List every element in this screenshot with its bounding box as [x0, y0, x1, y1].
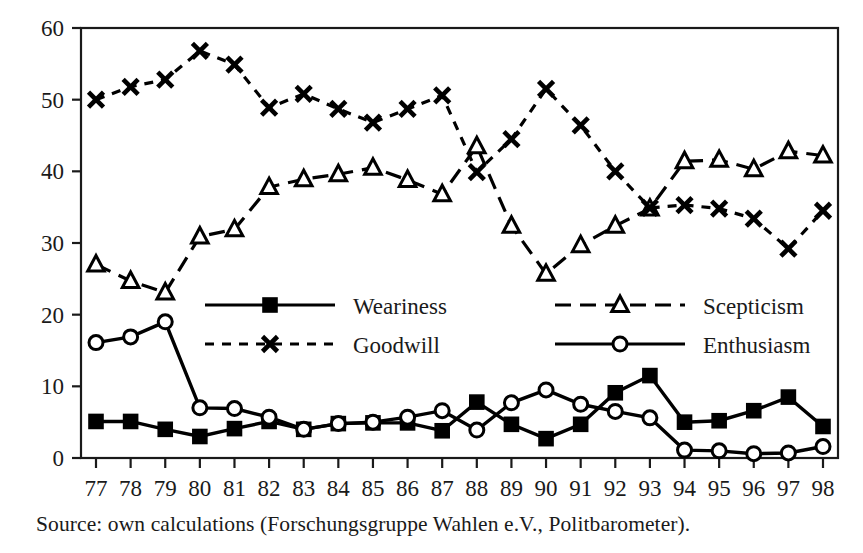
chart-figure: 6050403020100 77787980818283848586878889… — [0, 0, 863, 553]
marker-open-triangle — [676, 152, 693, 167]
marker-filled-square — [781, 390, 795, 404]
marker-cross-x — [608, 164, 623, 179]
marker-open-triangle — [365, 159, 382, 174]
marker-open-circle — [297, 422, 311, 436]
y-axis-ticks — [72, 28, 81, 458]
marker-open-circle — [608, 404, 622, 418]
legend-entry-goodwill[interactable]: Goodwill — [205, 333, 440, 358]
marker-cross-x — [262, 100, 277, 115]
marker-open-circle — [574, 397, 588, 411]
marker-open-triangle — [88, 256, 105, 271]
marker-cross-x — [539, 81, 554, 96]
marker-open-circle — [781, 446, 795, 460]
marker-filled-square — [678, 415, 692, 429]
marker-cross-x — [746, 211, 761, 226]
legend-entry-scepticism[interactable]: Scepticism — [555, 294, 804, 319]
x-tick-label: 98 — [812, 476, 835, 500]
y-tick-label: 10 — [41, 374, 64, 399]
x-tick-label: 96 — [742, 476, 765, 500]
marker-open-circle — [366, 415, 380, 429]
series-line — [96, 146, 823, 292]
x-tick-label: 85 — [361, 476, 384, 500]
marker-open-triangle — [469, 137, 486, 152]
marker-filled-square — [193, 430, 207, 444]
marker-open-circle — [539, 383, 553, 397]
legend-entry-weariness[interactable]: Weariness — [205, 294, 447, 319]
legend-label: Goodwill — [353, 333, 440, 358]
marker-open-triangle — [399, 171, 416, 186]
marker-cross-x — [296, 86, 311, 101]
marker-open-circle — [470, 423, 484, 437]
y-tick-label: 50 — [41, 88, 64, 113]
x-tick-label: 86 — [396, 476, 419, 500]
marker-open-triangle — [711, 151, 728, 166]
line-chart: 6050403020100 77787980818283848586878889… — [0, 0, 863, 500]
marker-open-triangle — [815, 147, 832, 162]
marker-open-circle — [678, 443, 692, 457]
marker-open-circle — [643, 411, 657, 425]
x-axis-tick-labels: 7778798081828384858687888990919293949596… — [85, 476, 835, 500]
marker-cross-x — [504, 132, 519, 147]
x-tick-label: 80 — [188, 476, 211, 500]
legend-entry-enthusiasm[interactable]: Enthusiasm — [555, 333, 810, 358]
source-note: Source: own calculations (Forschungsgrup… — [36, 512, 690, 537]
marker-open-circle — [747, 447, 761, 461]
x-tick-label: 79 — [154, 476, 177, 500]
marker-cross-x — [331, 101, 346, 116]
data-series-layer — [88, 43, 832, 460]
marker-open-triangle — [745, 160, 762, 175]
x-tick-label: 81 — [223, 476, 246, 500]
x-tick-label: 94 — [673, 476, 697, 500]
x-tick-label: 88 — [465, 476, 488, 500]
legend-label: Scepticism — [703, 294, 804, 319]
marker-open-circle — [193, 401, 207, 415]
y-tick-label: 20 — [41, 303, 64, 328]
marker-filled-square — [539, 432, 553, 446]
marker-open-circle — [227, 402, 241, 416]
marker-filled-square — [747, 404, 761, 418]
marker-open-circle — [401, 410, 415, 424]
marker-filled-square — [263, 298, 277, 312]
marker-open-circle — [124, 330, 138, 344]
x-tick-label: 97 — [777, 476, 800, 500]
marker-open-triangle — [261, 178, 278, 193]
marker-open-circle — [331, 417, 345, 431]
x-tick-label: 92 — [604, 476, 627, 500]
marker-open-triangle — [122, 272, 139, 287]
marker-cross-x — [158, 72, 173, 87]
x-tick-label: 78 — [119, 476, 142, 500]
legend-label: Weariness — [353, 294, 447, 319]
marker-filled-square — [158, 422, 172, 436]
x-tick-label: 82 — [258, 476, 281, 500]
y-tick-label: 30 — [41, 231, 64, 256]
x-tick-label: 91 — [569, 476, 592, 500]
chart-legend: WearinessScepticismGoodwillEnthusiasm — [205, 294, 810, 358]
marker-open-triangle — [330, 165, 347, 180]
x-tick-label: 83 — [292, 476, 315, 500]
series-scepticism — [88, 137, 832, 299]
y-tick-label: 40 — [41, 159, 64, 184]
marker-cross-x — [192, 43, 207, 58]
marker-filled-square — [643, 369, 657, 383]
y-tick-label: 60 — [41, 16, 64, 41]
x-tick-label: 95 — [708, 476, 731, 500]
marker-filled-square — [89, 414, 103, 428]
marker-filled-square — [574, 417, 588, 431]
x-tick-label: 89 — [500, 476, 523, 500]
marker-open-circle — [435, 404, 449, 418]
marker-filled-square — [712, 414, 726, 428]
marker-open-triangle — [572, 236, 589, 251]
series-markers — [88, 137, 832, 299]
marker-cross-x — [469, 165, 484, 180]
marker-open-triangle — [295, 170, 312, 185]
marker-open-circle — [712, 444, 726, 458]
x-axis-ticks — [96, 458, 823, 468]
marker-open-triangle — [612, 296, 629, 311]
marker-cross-x — [89, 92, 104, 107]
marker-filled-square — [124, 414, 138, 428]
x-tick-label: 77 — [85, 476, 108, 500]
marker-open-triangle — [192, 228, 209, 243]
series-line — [96, 51, 823, 249]
marker-open-circle — [262, 410, 276, 424]
x-tick-label: 90 — [535, 476, 558, 500]
